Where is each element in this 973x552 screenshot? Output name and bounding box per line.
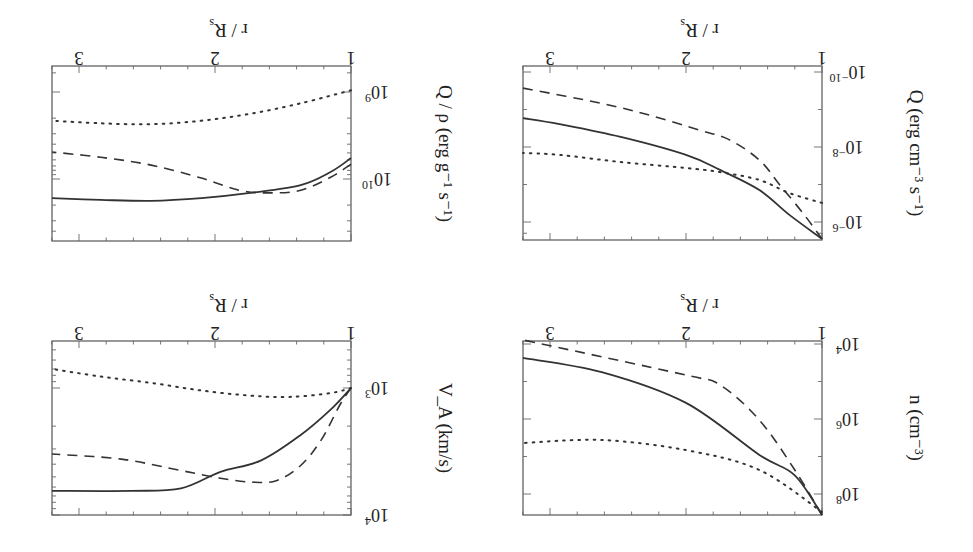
curve-dotted [523,440,822,512]
panel-q: 123r / Rs10−1010−810−6Q (erg cm⁻³ s⁻¹) [523,16,927,240]
y-tick-label: 104 [365,505,389,528]
plot-frame [52,341,351,515]
curve-dashed [523,88,822,239]
y-tick-label: 103 [365,378,389,401]
x-tick-label: 3 [74,48,84,69]
x-axis-label: r / Rs [209,16,248,41]
y-axis-label: V_A (km/s) [434,383,456,473]
x-tick-label: 1 [346,323,356,344]
y-axis-label: n (cm⁻³) [905,395,927,461]
y-tick-label: 109 [365,82,389,105]
x-tick-label: 3 [545,48,555,69]
x-tick-label: 1 [346,48,356,69]
x-axis-label: r / Rs [209,291,248,316]
figure-rotated-180: 123r / Rs1091010Q / ρ (erg g⁻¹ s⁻¹) 123r… [0,0,973,552]
x-axis-label: r / Rs [680,16,719,41]
x-tick-label: 1 [817,48,827,69]
y-tick-label: 10−6 [833,212,864,235]
y-tick-label: 10−8 [833,137,864,160]
x-tick-label: 2 [681,48,691,69]
plot-frame [523,341,822,515]
y-tick-label: 104 [836,334,860,357]
x-tick-label: 2 [210,48,220,69]
y-tick-label: 108 [836,484,860,507]
y-axis-label: Q / ρ (erg g⁻¹ s⁻¹) [434,85,456,222]
curve-solid [52,158,351,201]
panel-density: 123r / Rs104106108n (cm⁻³) [523,291,927,515]
four-panel-plot: 123r / Rs1091010Q / ρ (erg g⁻¹ s⁻¹) 123r… [0,0,973,552]
plot-frame [52,66,351,241]
curve-dashed [523,340,822,515]
curve-solid [523,358,822,515]
panel-alfven-speed: 123r / Rs103104V_A (km/s) [52,291,456,528]
y-axis-label: Q (erg cm⁻³ s⁻¹) [905,90,927,217]
x-tick-label: 3 [74,323,84,344]
x-tick-label: 3 [545,323,555,344]
x-tick-label: 2 [681,323,691,344]
y-tick-label: 106 [836,409,860,432]
y-tick-label: 10−10 [830,62,867,85]
y-tick-label: 1010 [362,169,392,192]
curve-dotted [52,90,351,124]
x-axis-label: r / Rs [680,291,719,316]
curve-dotted [523,153,822,203]
panel-q-over-rho: 123r / Rs1091010Q / ρ (erg g⁻¹ s⁻¹) [52,16,456,241]
x-tick-label: 2 [210,323,220,344]
curve-solid [523,118,822,239]
curve-solid [52,388,351,491]
curve-dashed [52,388,351,483]
curve-dotted [52,369,351,397]
plot-frame [523,66,822,240]
x-tick-label: 1 [817,323,827,344]
curve-dashed [52,152,351,193]
